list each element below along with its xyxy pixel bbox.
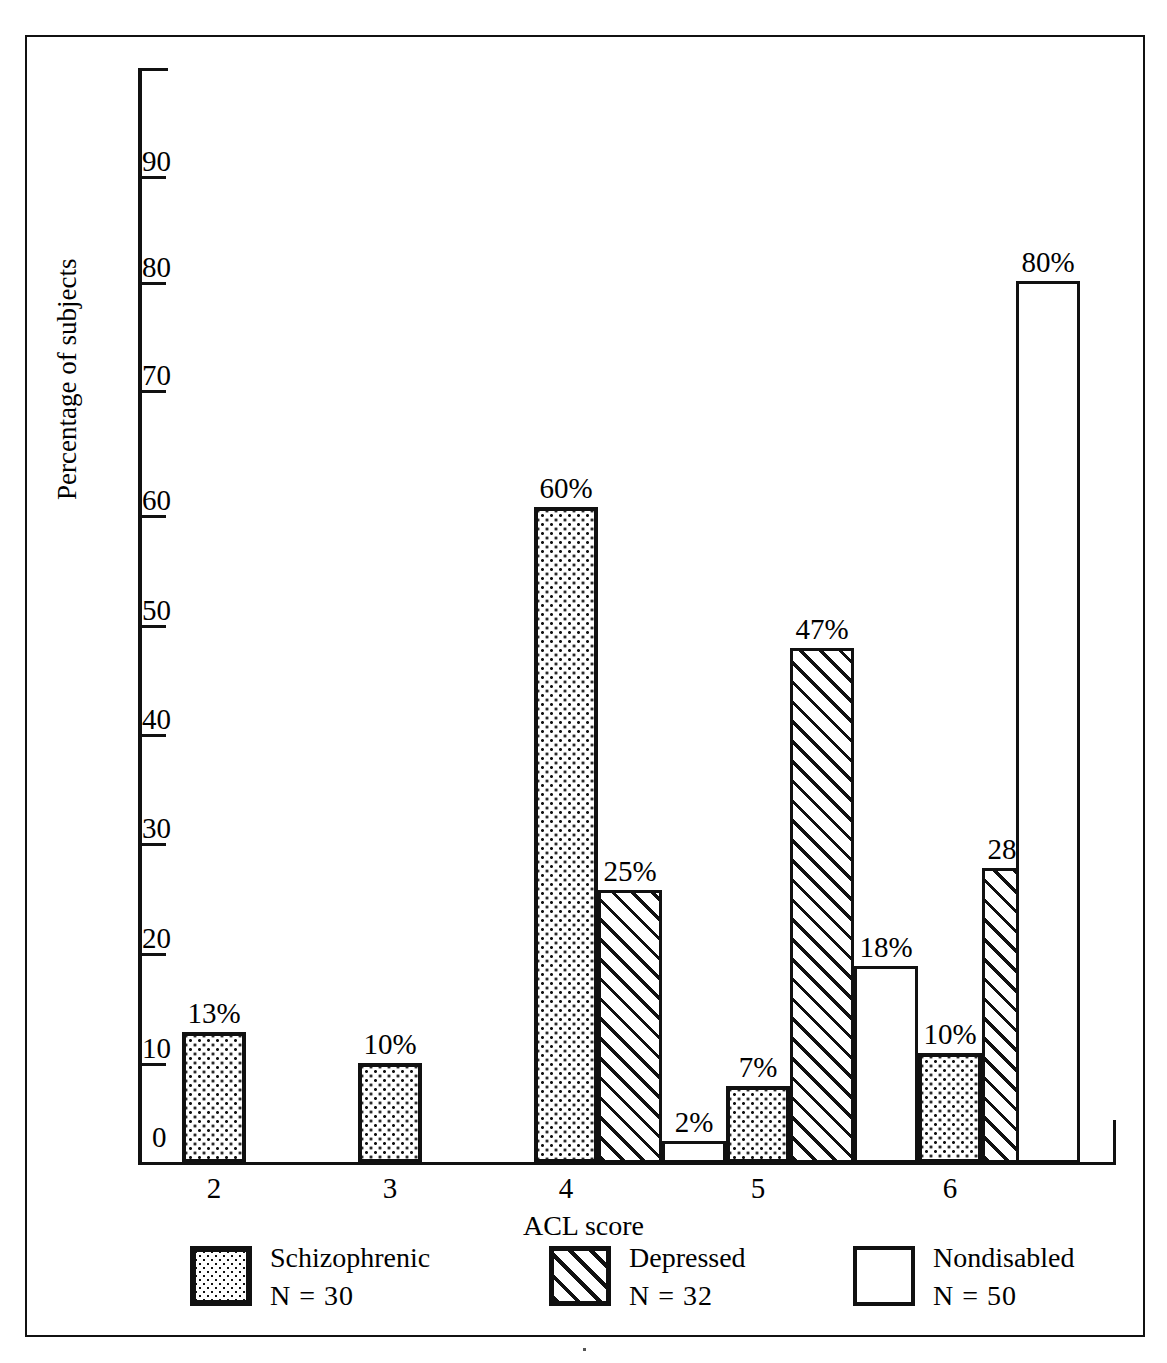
bar-value-score6-nondisabled: 80% bbox=[998, 246, 1098, 279]
legend-label-depressed: Depressed bbox=[629, 1239, 746, 1277]
bar-value-score3-schizophrenic: 10% bbox=[340, 1028, 440, 1061]
bar-score6-schizophrenic[interactable] bbox=[918, 1053, 982, 1163]
y-tick-label-60: 60 bbox=[142, 485, 171, 515]
bar-value-score5-depressed: 47% bbox=[772, 613, 872, 646]
bar-value-score5-nondisabled: 18% bbox=[836, 931, 936, 964]
bar-score5-depressed[interactable] bbox=[790, 648, 854, 1163]
bar-score5-schizophrenic[interactable] bbox=[726, 1086, 790, 1163]
legend-n-schizophrenic: N = 30 bbox=[270, 1277, 430, 1315]
bar-score2-schizophrenic[interactable] bbox=[182, 1032, 246, 1163]
plot-area: 0 10 20 30 40 50 60 70 80 90 Percentage … bbox=[0, 0, 1167, 1363]
y-tick-label-0: 0 bbox=[152, 1122, 167, 1152]
page-artifact-dot bbox=[583, 1348, 586, 1351]
y-axis-title: Percentage of subjects bbox=[52, 160, 83, 500]
legend-n-nondisabled: N = 50 bbox=[933, 1277, 1075, 1315]
figure-root: 0 10 20 30 40 50 60 70 80 90 Percentage … bbox=[0, 0, 1167, 1363]
legend-text-nondisabled: Nondisabled N = 50 bbox=[933, 1239, 1075, 1315]
y-tick-label-30: 30 bbox=[142, 813, 171, 843]
y-tick-label-80: 80 bbox=[142, 252, 171, 282]
legend-text-depressed: Depressed N = 32 bbox=[629, 1239, 746, 1315]
bar-score4-nondisabled[interactable] bbox=[662, 1141, 726, 1163]
bar-score3-schizophrenic[interactable] bbox=[358, 1063, 422, 1163]
bar-value-score4-depressed: 25% bbox=[580, 855, 680, 888]
bar-score4-schizophrenic[interactable] bbox=[534, 507, 598, 1163]
y-tick-label-50: 50 bbox=[142, 595, 171, 625]
x-axis-right-cap bbox=[1113, 1120, 1116, 1165]
y-tick-label-10: 10 bbox=[142, 1033, 171, 1063]
bar-value-score4-schizophrenic: 60% bbox=[516, 472, 616, 505]
y-tick-label-70: 70 bbox=[142, 360, 171, 390]
y-tick-label-40: 40 bbox=[142, 704, 171, 734]
y-tick-label-90: 90 bbox=[142, 146, 171, 176]
legend-swatch-nondisabled-icon bbox=[853, 1246, 915, 1306]
legend-label-nondisabled: Nondisabled bbox=[933, 1239, 1075, 1277]
bar-score5-nondisabled[interactable] bbox=[854, 966, 918, 1163]
y-tick-label-20: 20 bbox=[142, 923, 171, 953]
x-axis-title: ACL score bbox=[0, 1210, 1167, 1242]
legend-swatch-depressed-icon bbox=[549, 1246, 611, 1306]
legend-n-depressed: N = 32 bbox=[629, 1277, 746, 1315]
x-tick-label-2: 2 bbox=[164, 1172, 264, 1205]
legend: Schizophrenic N = 30 Depressed N = 32 No… bbox=[0, 1243, 1167, 1333]
x-tick-label-3: 3 bbox=[340, 1172, 440, 1205]
legend-text-schizophrenic: Schizophrenic N = 30 bbox=[270, 1239, 430, 1315]
x-tick-label-6: 6 bbox=[900, 1172, 1000, 1205]
x-tick-label-5: 5 bbox=[708, 1172, 808, 1205]
legend-label-schizophrenic: Schizophrenic bbox=[270, 1239, 430, 1277]
legend-swatch-schizophrenic-icon bbox=[190, 1246, 252, 1306]
y-axis-top-cap bbox=[138, 68, 168, 71]
bar-value-score2-schizophrenic: 13% bbox=[164, 997, 264, 1030]
bar-score6-nondisabled[interactable] bbox=[1016, 281, 1080, 1163]
x-tick-label-4: 4 bbox=[516, 1172, 616, 1205]
